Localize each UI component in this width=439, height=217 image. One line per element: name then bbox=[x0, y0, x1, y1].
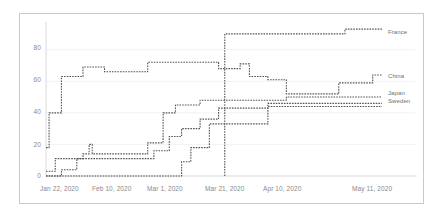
x-tick-label-mar-21: Mar 21, 2020 bbox=[205, 185, 245, 192]
y-tick-label-80: 80 bbox=[27, 44, 41, 51]
x-tick-label-apr-10: Apr 10, 2020 bbox=[263, 185, 301, 192]
x-tick-label-mar-1: Mar 1, 2020 bbox=[147, 185, 183, 192]
y-tick-label-60: 60 bbox=[27, 76, 41, 83]
x-tick-label-may-11: May 11, 2020 bbox=[352, 185, 392, 192]
series-label-sweden: Sweden bbox=[388, 98, 410, 104]
y-tick-label-20: 20 bbox=[27, 141, 41, 148]
x-tick-label-jan-22: Jan 22, 2020 bbox=[40, 185, 79, 192]
chart-card-frame bbox=[19, 13, 424, 204]
y-tick-label-0: 0 bbox=[27, 172, 41, 179]
series-label-japan: Japan bbox=[388, 90, 405, 96]
chart-screenshot: 80 60 40 20 0 Jan 22, 2020 Feb 10, 2020 … bbox=[0, 0, 439, 217]
series-label-china: China bbox=[388, 73, 404, 79]
x-tick-label-feb-10: Feb 10, 2020 bbox=[92, 185, 132, 192]
series-label-france: France bbox=[388, 29, 407, 35]
y-tick-label-40: 40 bbox=[27, 108, 41, 115]
